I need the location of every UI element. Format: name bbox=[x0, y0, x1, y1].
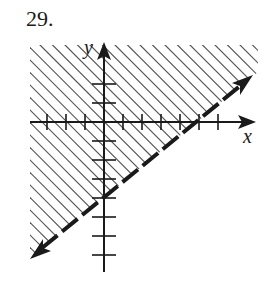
y-axis-label: y bbox=[82, 36, 93, 59]
y-axis bbox=[92, 42, 116, 272]
inequality-graph: y x bbox=[0, 0, 276, 299]
boundary-line bbox=[30, 75, 253, 259]
x-axis-label: x bbox=[242, 125, 252, 147]
x-axis bbox=[30, 114, 256, 130]
